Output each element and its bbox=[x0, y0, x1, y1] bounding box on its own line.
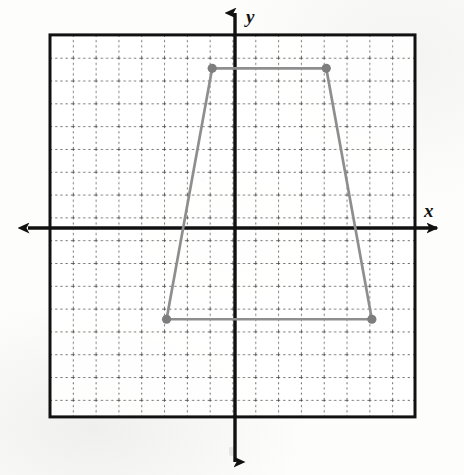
x-axis-label: x bbox=[423, 200, 434, 221]
vertex-top-left bbox=[208, 64, 217, 73]
grid-lines bbox=[50, 35, 415, 417]
coordinate-plane-figure: y x bbox=[0, 0, 464, 475]
plot-svg: y x bbox=[0, 0, 464, 475]
y-axis-label: y bbox=[244, 6, 255, 27]
vertex-bottom-left bbox=[162, 315, 171, 324]
vertex-bottom-right bbox=[367, 315, 376, 324]
vertex-top-right bbox=[322, 64, 331, 73]
